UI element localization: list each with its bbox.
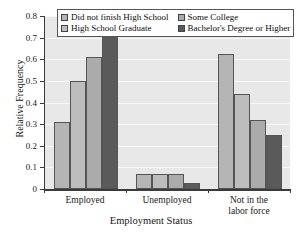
x-tick-mark (290, 189, 291, 193)
legend-label: Bachelor's Degree or Higher (188, 23, 291, 34)
bar (168, 174, 184, 189)
legend-swatch-icon (178, 14, 185, 21)
y-tick-label: 0.2 (0, 141, 37, 151)
x-axis-title: Employment Status (0, 215, 302, 226)
y-tick-label: 0.3 (0, 119, 37, 129)
legend-item: Bachelor's Degree or Higher (178, 23, 291, 34)
bar (266, 135, 282, 189)
bar (102, 33, 118, 189)
y-tick-label: 0.4 (0, 98, 37, 108)
legend-item: Did not finish High School (61, 12, 169, 23)
x-category-label: Unemployed (142, 195, 191, 206)
legend-label: Did not finish High School (71, 12, 169, 23)
bar (70, 81, 86, 189)
legend-item: High School Graduate (61, 23, 169, 34)
x-tick-mark (44, 189, 45, 193)
x-tick-mark (126, 189, 127, 193)
x-category-label: Employed (65, 195, 104, 206)
x-category-label: Not in the labor force (228, 195, 269, 217)
y-tick-label: 0.8 (0, 11, 37, 21)
x-axis-line (44, 189, 290, 191)
x-tick-mark (208, 189, 209, 193)
bar (136, 174, 152, 189)
bar (152, 174, 168, 189)
bar (54, 122, 70, 189)
bar-group (54, 16, 118, 189)
bar (234, 94, 250, 189)
legend: Did not finish High SchoolSome CollegeHi… (57, 9, 294, 37)
legend-item: Some College (178, 12, 291, 23)
legend-swatch-icon (61, 25, 68, 32)
bar-group (136, 16, 200, 189)
plot-inner (45, 16, 290, 189)
bar (250, 120, 266, 189)
legend-label: High School Graduate (71, 23, 151, 34)
y-tick-label: 0 (0, 184, 37, 194)
bar (218, 54, 234, 189)
y-tick-label: 0.7 (0, 33, 37, 43)
legend-swatch-icon (61, 14, 68, 21)
y-tick-label: 0.5 (0, 76, 37, 86)
plot-area (44, 16, 290, 189)
bar-chart: Relative Frequency 00.10.20.30.40.50.60.… (0, 0, 302, 232)
y-tick-label: 0.1 (0, 162, 37, 172)
legend-swatch-icon (178, 25, 185, 32)
legend-label: Some College (188, 12, 239, 23)
bar-group (218, 16, 282, 189)
bar (86, 57, 102, 189)
y-tick-label: 0.6 (0, 54, 37, 64)
